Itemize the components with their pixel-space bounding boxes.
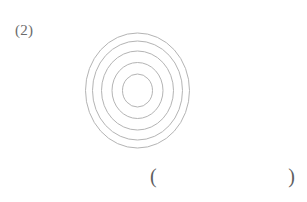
close-paren: ) [288,164,295,188]
ring-group [86,33,190,148]
open-paren: ( [150,164,157,188]
question-number-label: (2) [15,21,33,39]
answer-field[interactable]: ( ) [150,162,295,190]
concentric-circles-svg [80,28,196,154]
ring-outer-2 [93,41,183,140]
answer-input[interactable] [157,166,289,186]
ring-inner-5 [123,74,153,107]
worksheet-page: (2) ( ) [0,0,307,202]
ring-inner-4 [112,63,163,119]
concentric-circles-figure [80,28,196,154]
